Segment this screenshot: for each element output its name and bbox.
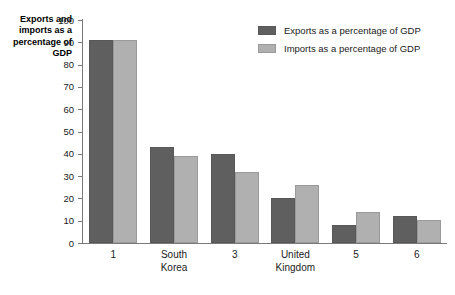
bar-exports — [150, 147, 174, 243]
y-axis-tick-label: 10 — [63, 214, 74, 227]
bar-group — [211, 20, 259, 243]
bar-imports — [356, 212, 380, 243]
bar-imports — [235, 172, 259, 243]
y-axis-title-line: percentage of — [0, 37, 72, 48]
y-axis-title-line: imports as a — [0, 25, 72, 36]
bar-exports — [89, 40, 113, 243]
legend-label: Imports as a percentage of GDP — [284, 43, 420, 54]
y-axis-title-line: GDP — [0, 48, 72, 59]
y-axis-tick-label: 50 — [63, 125, 74, 138]
y-axis-tick-label: 80 — [63, 58, 74, 71]
y-axis-tick-label: 30 — [63, 170, 74, 183]
bar-exports — [393, 216, 417, 243]
legend-label: Exports as a percentage of GDP — [284, 25, 421, 36]
legend-swatch-exports — [258, 26, 276, 35]
bar-imports — [295, 185, 319, 243]
legend-item: Exports as a percentage of GDP — [258, 22, 421, 38]
chart-legend: Exports as a percentage of GDPImports as… — [258, 22, 421, 58]
bar-imports — [417, 220, 441, 243]
y-axis-tick-mark — [78, 243, 83, 244]
x-axis-label-line: Korea — [134, 262, 214, 275]
bar-exports — [271, 198, 295, 243]
legend-swatch-imports — [258, 44, 276, 53]
bar-chart: Exports andimports as apercentage ofGDP … — [0, 0, 455, 295]
x-axis-label-line: 6 — [377, 249, 455, 262]
y-axis-tick-label: 60 — [63, 103, 74, 116]
bar-group — [89, 20, 137, 243]
x-axis-label-line: Kingdom — [255, 262, 335, 275]
y-axis-tick-label: 70 — [63, 80, 74, 93]
x-axis-line — [82, 243, 447, 244]
bar-imports — [113, 40, 137, 243]
bar-exports — [332, 225, 356, 243]
x-axis-label: 6 — [377, 249, 455, 262]
y-axis-tick-label: 40 — [63, 147, 74, 160]
y-axis-tick-label: 100 — [58, 14, 74, 27]
bar-imports — [174, 156, 198, 243]
legend-item: Imports as a percentage of GDP — [258, 40, 421, 56]
bar-exports — [211, 154, 235, 243]
y-axis-tick-label: 20 — [63, 192, 74, 205]
y-axis-tick-label: 90 — [63, 36, 74, 49]
y-axis-tick-label: 0 — [69, 237, 74, 250]
bar-group — [150, 20, 198, 243]
